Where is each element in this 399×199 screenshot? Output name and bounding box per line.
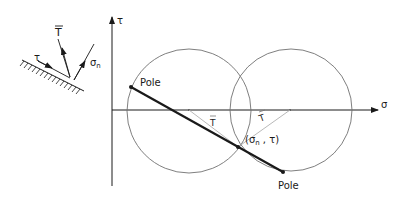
pole-line [131, 87, 283, 172]
pole-right-label: Pole [278, 180, 299, 191]
inset-traction-label: T [54, 26, 62, 39]
tau-axis-label: τ [117, 15, 123, 26]
sigma-axis-label: σ [381, 99, 388, 110]
inset-shear-label: τ [34, 52, 40, 63]
radius-left-label: T [209, 118, 216, 128]
pole-left-point [129, 85, 133, 89]
pole-right-point [281, 170, 285, 174]
radius-right-label: T [257, 112, 267, 124]
intersection-point [236, 145, 240, 149]
mohr-diagram: T τ σn τ σ T T Pole Pole (σn , τ) [0, 0, 399, 199]
pole-left-label: Pole [140, 77, 161, 88]
inset-normal-label: σn [90, 57, 101, 70]
intersection-label: (σn , τ) [245, 134, 279, 147]
inset-surface [20, 60, 84, 94]
